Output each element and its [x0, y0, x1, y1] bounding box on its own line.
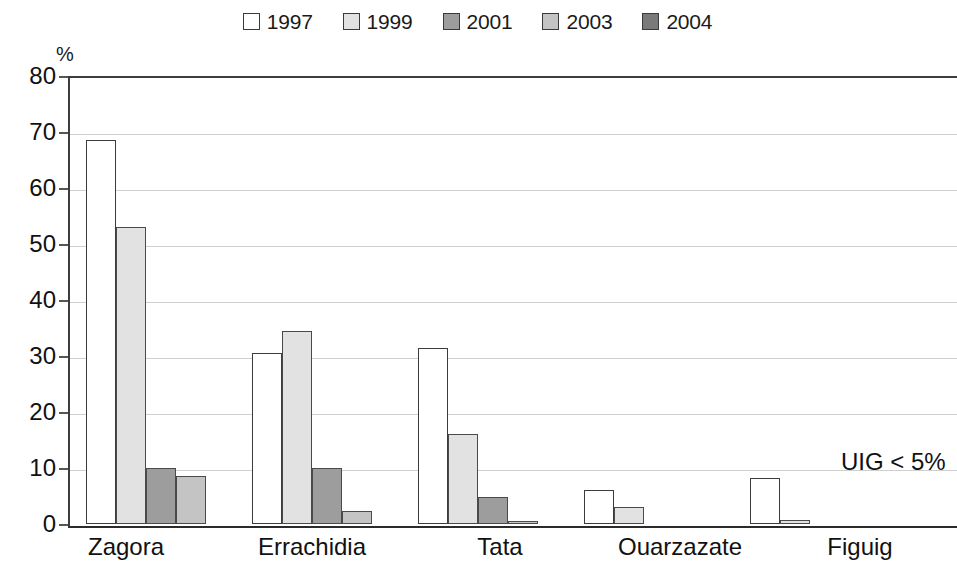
bar-group-ouarzazate [584, 76, 750, 524]
bar-group-errachidia [252, 76, 418, 524]
bar-zagora-2001[interactable] [146, 468, 176, 524]
y-tick-label-40: 40 [0, 288, 56, 312]
x-tick-label-tata: Tata [477, 534, 522, 560]
y-tick-label-50: 50 [0, 232, 56, 256]
legend-swatch-2004 [642, 13, 659, 30]
x-tick-label-ouarzazate: Ouarzazate [618, 534, 742, 560]
legend-label-1999: 1999 [367, 11, 413, 32]
y-tick-mark-40 [59, 300, 68, 302]
bar-errachidia-1997[interactable] [252, 353, 282, 524]
bar-ouarzazate-1999[interactable] [614, 507, 644, 524]
legend-label-2003: 2003 [566, 11, 612, 32]
y-tick-mark-70 [59, 132, 68, 134]
x-tick-label-errachidia: Errachidia [258, 534, 366, 560]
legend-swatch-1999 [343, 13, 360, 30]
legend-item-2001[interactable]: 2001 [443, 11, 513, 32]
y-axis-labels: 80706050403020100 [0, 0, 60, 569]
y-tick-mark-30 [59, 356, 68, 358]
bar-errachidia-1999[interactable] [282, 331, 312, 524]
y-tick-mark-20 [59, 412, 68, 414]
legend-swatch-1997 [243, 13, 260, 30]
y-tick-label-60: 60 [0, 176, 56, 200]
y-tick-label-20: 20 [0, 400, 56, 424]
x-axis-labels: ZagoraErrachidiaTataOuarzazateFiguig [68, 534, 955, 569]
legend-item-1997[interactable]: 1997 [243, 11, 313, 32]
bar-tata-2003[interactable] [508, 521, 538, 524]
legend-swatch-2003 [542, 13, 559, 30]
chart-annotation: UIG < 5% [841, 450, 946, 474]
y-tick-label-70: 70 [0, 120, 56, 144]
bar-errachidia-2001[interactable] [312, 468, 342, 524]
bar-figuig-1997[interactable] [750, 478, 780, 524]
x-tick-label-zagora: Zagora [88, 534, 164, 560]
bar-figuig-1999[interactable] [780, 520, 810, 524]
y-tick-label-0: 0 [0, 512, 56, 536]
bar-tata-1997[interactable] [418, 348, 448, 524]
y-tick-mark-50 [59, 244, 68, 246]
legend-item-1999[interactable]: 1999 [343, 11, 413, 32]
bar-ouarzazate-1997[interactable] [584, 490, 614, 524]
legend-swatch-2001 [443, 13, 460, 30]
x-tick-label-figuig: Figuig [827, 534, 892, 560]
y-tick-mark-10 [59, 468, 68, 470]
legend-item-2003[interactable]: 2003 [542, 11, 612, 32]
y-tick-label-30: 30 [0, 344, 56, 368]
legend-label-1997: 1997 [267, 11, 313, 32]
bar-errachidia-2003[interactable] [342, 511, 372, 524]
y-tick-label-80: 80 [0, 64, 56, 88]
bars-layer [68, 76, 955, 524]
bar-tata-1999[interactable] [448, 434, 478, 524]
bar-group-zagora [86, 76, 252, 524]
legend-item-2004[interactable]: 2004 [642, 11, 712, 32]
legend-label-2004: 2004 [666, 11, 712, 32]
bar-zagora-1999[interactable] [116, 227, 146, 524]
legend-label-2001: 2001 [467, 11, 513, 32]
y-tick-mark-80 [59, 76, 68, 78]
y-tick-mark-60 [59, 188, 68, 190]
bar-tata-2001[interactable] [478, 497, 508, 524]
y-tick-label-10: 10 [0, 456, 56, 480]
chart-legend: 19971999200120032004 [0, 6, 955, 36]
bar-group-tata [418, 76, 584, 524]
bar-zagora-2003[interactable] [176, 476, 206, 524]
bar-zagora-1997[interactable] [86, 140, 116, 524]
y-tick-mark-0 [59, 524, 68, 526]
